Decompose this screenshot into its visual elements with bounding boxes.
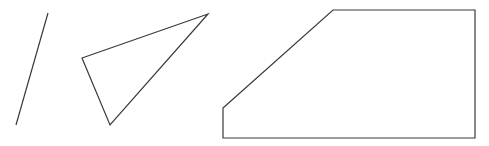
triangle xyxy=(82,14,208,125)
pentagon xyxy=(223,10,475,138)
diagram-canvas xyxy=(0,0,489,146)
slanted-line xyxy=(16,13,48,125)
